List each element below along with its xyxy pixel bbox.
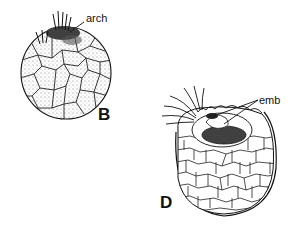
panel-label-b: B [98,106,110,123]
specimen-b [20,11,112,120]
annotation-emb: emb [259,95,280,106]
diagram-canvas [0,0,295,239]
annotation-arch: arch [86,13,107,24]
panel-label-d: D [160,194,172,211]
